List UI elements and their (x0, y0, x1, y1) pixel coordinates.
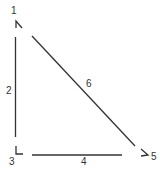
node-1-label: 1 (11, 6, 17, 16)
edge-6-line (32, 36, 135, 146)
node-3-label: 3 (9, 157, 15, 167)
triangle-diagram (0, 0, 160, 173)
node-5-arrow-marker (141, 149, 148, 156)
node-3-corner-marker (16, 146, 23, 154)
edge-4-label: 4 (81, 157, 87, 167)
edge-2-label: 2 (6, 86, 12, 96)
edge-6-label: 6 (86, 79, 92, 89)
node-5-label: 5 (151, 152, 157, 162)
node-1-corner-marker (16, 21, 22, 28)
